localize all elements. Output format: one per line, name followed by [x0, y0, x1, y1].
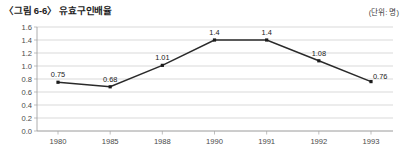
data-point-label: 1.08 [312, 49, 326, 58]
y-tick-label: 0.8 [21, 75, 32, 84]
page-title: 〈그림 6-6〉 유효구인배율 [4, 3, 112, 17]
x-tick-label: 1980 [50, 137, 67, 146]
y-tick-label: 0.6 [21, 88, 32, 97]
y-tick-label: 0.0 [21, 127, 32, 136]
y-tick-label: 1.0 [21, 62, 32, 71]
line-chart: 0.00.20.40.60.81.01.21.41.6 0.750.681.01… [0, 18, 404, 161]
y-tick-label: 1.2 [21, 49, 32, 58]
x-tick-label: 1985 [102, 137, 119, 146]
data-point-marker [317, 59, 320, 62]
data-point-marker [161, 64, 164, 67]
x-tick-label: 1990 [206, 137, 223, 146]
x-axis-tick-labels: 1980198519881990199119921993 [50, 137, 380, 146]
x-tick-label: 1988 [154, 137, 171, 146]
data-point-marker [265, 38, 268, 41]
data-point-label: 0.75 [51, 70, 65, 79]
data-point-label: 1.01 [155, 53, 169, 62]
y-tick-label: 1.6 [21, 23, 32, 32]
y-axis-tick-labels: 0.00.20.40.60.81.01.21.41.6 [21, 23, 37, 136]
data-point-labels: 0.750.681.011.41.41.080.76 [51, 28, 388, 84]
data-point-marker [56, 81, 59, 84]
data-point-label: 0.76 [373, 72, 387, 81]
figure-container: 〈그림 6-6〉 유효구인배율 (단위: 명) 0.00.20.40.60.81… [0, 0, 404, 161]
x-tick-label: 1991 [258, 137, 275, 146]
x-tick-label: 1992 [310, 137, 327, 146]
data-point-label: 1.4 [262, 28, 272, 37]
data-point-label: 1.4 [209, 28, 219, 37]
x-tick-label: 1993 [363, 137, 380, 146]
y-tick-label: 0.4 [21, 101, 32, 110]
y-tick-label: 1.4 [21, 36, 32, 45]
chart-plot-area: 0.00.20.40.60.81.01.21.41.6 0.750.681.01… [0, 18, 404, 161]
x-axis-tick-marks [58, 131, 371, 135]
y-tick-label: 0.2 [21, 114, 32, 123]
data-point-label: 0.68 [103, 75, 117, 84]
unit-note: (단위: 명) [369, 6, 399, 17]
data-point-marker [109, 85, 112, 88]
data-point-marker [213, 38, 216, 41]
